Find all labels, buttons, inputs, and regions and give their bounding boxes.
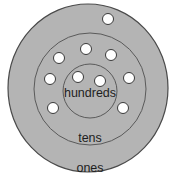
tens-label: tens bbox=[78, 131, 102, 145]
counter-dot bbox=[73, 72, 84, 83]
counter-dot bbox=[95, 76, 106, 87]
counter-dot bbox=[54, 53, 65, 64]
hundreds-label: hundreds bbox=[64, 86, 116, 100]
counter-dot bbox=[103, 14, 114, 25]
counter-dot bbox=[118, 103, 129, 114]
counter-dot bbox=[81, 44, 92, 55]
counter-dot bbox=[45, 74, 56, 85]
counter-dot bbox=[48, 103, 59, 114]
counter-dot bbox=[124, 73, 135, 84]
ones-label: ones bbox=[76, 161, 103, 175]
place-value-diagram: hundreds tens ones bbox=[0, 0, 172, 185]
counter-dot bbox=[106, 50, 117, 61]
ones-counters bbox=[103, 14, 114, 25]
